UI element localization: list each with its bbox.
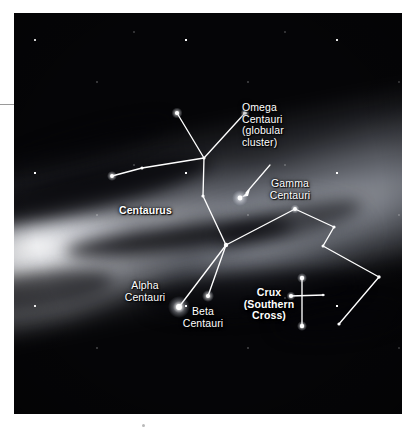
label-omega-centauri: Omega Centauri (globular cluster) xyxy=(242,102,284,148)
star-neck xyxy=(201,194,204,197)
label-alpha-centauri: Alpha Centauri xyxy=(117,280,173,303)
star-crux-top xyxy=(300,276,304,280)
label-centaurus: Centaurus xyxy=(119,205,172,217)
line-west-arm xyxy=(112,158,204,176)
star-east-bend xyxy=(332,225,335,228)
star-crux-bottom xyxy=(300,324,304,328)
page-marker-dot xyxy=(142,424,145,427)
figure-stage: Centaurus Omega Centauri (globular clust… xyxy=(0,0,416,434)
star-crux-right xyxy=(322,294,325,297)
star-far-east xyxy=(377,275,380,278)
star-west-mid xyxy=(141,167,144,170)
label-gamma-centauri: Gamma Centauri xyxy=(259,178,321,201)
label-crux: Crux (Southern Cross) xyxy=(238,287,300,322)
star-east-lower-bend xyxy=(322,245,325,248)
star-hub xyxy=(224,243,228,247)
constellation-overlay xyxy=(14,13,402,414)
star-south-east xyxy=(337,322,340,325)
star-beta-centauri xyxy=(206,294,210,298)
line-east-chain xyxy=(295,209,379,324)
star-upper-left xyxy=(175,111,179,115)
line-beta-branch xyxy=(208,245,226,296)
star-omega-centauri xyxy=(238,196,243,201)
sky-photograph: Centaurus Omega Centauri (globular clust… xyxy=(14,13,402,414)
line-north-east-arm xyxy=(204,113,245,158)
margin-rule xyxy=(0,104,15,105)
line-spine xyxy=(203,158,226,245)
label-beta-centauri: Beta Centauri xyxy=(177,306,229,329)
line-gamma-branch xyxy=(226,209,295,245)
star-gamma-centauri xyxy=(293,207,297,211)
star-west-end xyxy=(110,174,114,178)
line-north-west-arm xyxy=(177,113,204,158)
star-north-junction xyxy=(202,156,205,159)
